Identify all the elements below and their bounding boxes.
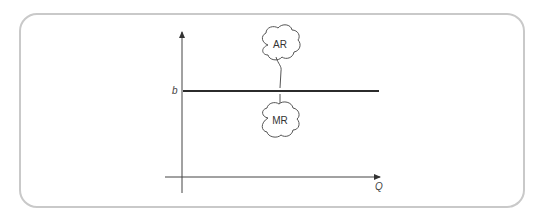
q-axis-label: Q (375, 181, 383, 192)
b-tick-label: b (172, 85, 178, 96)
ar-callout-pointer (280, 71, 281, 88)
mr-label: MR (272, 115, 288, 126)
diagram-canvas: b Q AR MR (0, 0, 545, 214)
ar-label: AR (273, 39, 287, 50)
